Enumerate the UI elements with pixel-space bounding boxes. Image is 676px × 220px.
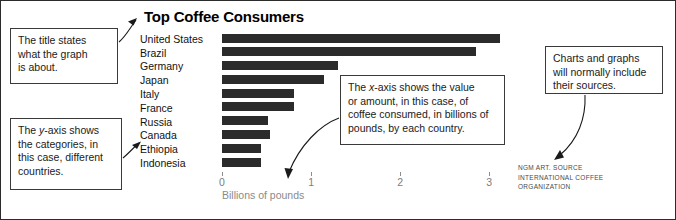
x-axis-tick-label: 2 [397, 176, 403, 188]
callout-source-line2: will normally include [553, 66, 655, 80]
chart-row: United States [140, 32, 518, 46]
callout-xaxis-line3: coffee consumed, in billions of [348, 108, 497, 122]
category-label: Germany [140, 60, 222, 72]
callout-xaxis-note: The x-axis shows the value or amount, in… [340, 75, 505, 145]
chart-row: Indonesia [140, 156, 518, 170]
callout-title-line1: The title states [18, 34, 110, 48]
bar [222, 144, 261, 153]
bar [222, 116, 268, 125]
category-label: United States [140, 33, 222, 45]
callout-title-line2: what the graph [18, 48, 110, 62]
callout-source-note: Charts and graphs will normally include … [545, 46, 663, 94]
arrow-source-head [554, 150, 564, 160]
category-label: Brazil [140, 47, 222, 59]
callout-xaxis-line2: or amount, in this case, of [348, 95, 497, 109]
bar [222, 89, 294, 98]
bar [222, 34, 500, 43]
bar-track [222, 46, 518, 60]
bar-track [222, 32, 518, 46]
callout-xaxis-line4: pounds, by each country. [348, 122, 497, 136]
callout-xaxis-line1: The x-axis shows the value [348, 81, 497, 95]
callout-yaxis-line1: The y-axis shows [18, 124, 114, 138]
bar [222, 47, 476, 56]
x-axis-tick-label: 0 [219, 176, 225, 188]
category-label: Ethiopia [140, 143, 222, 155]
category-label: Canada [140, 129, 222, 141]
arrow-source-line [560, 95, 585, 155]
callout-yaxis-line3: this case, different [18, 151, 114, 165]
bar [222, 158, 261, 167]
x-axis-tick-label: 3 [486, 176, 492, 188]
arrow-title-line [119, 20, 136, 42]
category-label: Italy [140, 88, 222, 100]
bar [222, 61, 338, 70]
x-axis: Billions of pounds 0123 [222, 172, 507, 202]
x-axis-tick-label: 1 [308, 176, 314, 188]
callout-source-line1: Charts and graphs [553, 52, 655, 66]
callout-yaxis-note: The y-axis shows the categories, in this… [10, 118, 122, 190]
category-label: Indonesia [140, 157, 222, 169]
bar [222, 75, 324, 84]
callout-yaxis-line4: countries. [18, 165, 114, 179]
callout-title-note: The title states what the graph is about… [10, 28, 118, 84]
bar-track [222, 60, 518, 74]
arrow-yaxis-line [123, 143, 139, 158]
bar [222, 102, 294, 111]
figure-container: Top Coffee Consumers United StatesBrazil… [0, 0, 676, 220]
bar-track [222, 156, 518, 170]
category-label: Russia [140, 116, 222, 128]
source-credit-line2: INTERNATIONAL COFFEE [518, 173, 658, 183]
x-axis-title: Billions of pounds [222, 189, 304, 201]
chart-title: Top Coffee Consumers [144, 8, 304, 25]
callout-yaxis-line2: the categories, in [18, 138, 114, 152]
category-label: Japan [140, 74, 222, 86]
category-label: France [140, 102, 222, 114]
callout-title-line3: is about. [18, 61, 110, 75]
source-credit-line1: NGM ART. SOURCE [518, 163, 658, 173]
chart-row: Brazil [140, 46, 518, 60]
callout-source-line3: their sources. [553, 79, 655, 93]
chart-row: Germany [140, 60, 518, 74]
arrow-title-head [128, 18, 137, 26]
source-credit: NGM ART. SOURCE INTERNATIONAL COFFEE ORG… [518, 163, 658, 192]
bar [222, 130, 270, 139]
source-credit-line3: ORGANIZATION [518, 182, 658, 192]
